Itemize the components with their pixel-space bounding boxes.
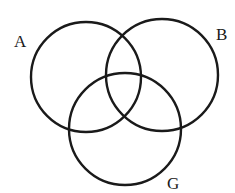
venn-diagram: A B G [0,0,235,193]
label-b: B [216,25,227,44]
label-a: A [14,32,27,51]
circle-g [69,73,181,185]
label-g: G [167,174,179,193]
circle-b [106,19,218,131]
